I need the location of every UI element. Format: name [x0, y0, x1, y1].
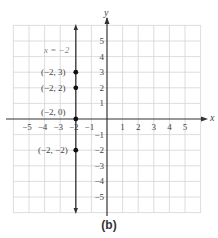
point-label-neg2-3: (−2, 3) [41, 67, 66, 77]
y-tick: −4 [94, 176, 104, 186]
x-tick: 5 [183, 122, 188, 132]
y-tick: 2 [100, 83, 105, 93]
point-neg2-0 [73, 117, 78, 122]
y-tick: 3 [100, 67, 105, 77]
line-arrow-down-icon [74, 208, 78, 214]
point-neg2-neg2 [73, 148, 78, 153]
point-label-neg2-neg2: (−2, −2) [38, 145, 68, 155]
y-tick: −2 [94, 145, 104, 155]
y-tick: −3 [94, 161, 104, 171]
coordinate-plane-figure: y x x = −2 (−2, 3) (−2, 2) (−2, 0) (−2, … [0, 0, 218, 238]
y-axis-arrow-icon [105, 17, 110, 24]
x-tick: −3 [53, 122, 63, 132]
x-tick-labels: −5 −4 −3 −2 −1 1 2 3 4 5 [22, 122, 188, 132]
y-tick: −1 [94, 130, 104, 140]
x-tick: −5 [22, 122, 32, 132]
graph-svg: y x x = −2 (−2, 3) (−2, 2) (−2, 0) (−2, … [0, 0, 218, 238]
y-axis-label: y [103, 7, 109, 18]
line-label: x = −2 [43, 45, 70, 55]
point-neg2-2 [73, 85, 78, 90]
figure-caption: (b) [0, 218, 218, 232]
point-label-neg2-2: (−2, 2) [41, 83, 66, 93]
x-tick: 2 [136, 122, 141, 132]
axes [6, 17, 208, 216]
x-axis-arrow-icon [201, 117, 208, 122]
y-tick: −5 [94, 192, 104, 202]
point-label-neg2-0: (−2, 0) [41, 107, 66, 117]
y-tick: 1 [100, 98, 105, 108]
y-tick: 4 [100, 52, 105, 62]
x-tick: −1 [85, 122, 95, 132]
line-arrow-up-icon [74, 24, 78, 30]
point-neg2-3 [73, 70, 78, 75]
x-tick: 4 [167, 122, 172, 132]
x-tick: −2 [69, 122, 79, 132]
x-tick: 3 [152, 122, 157, 132]
x-axis-label: x [209, 112, 215, 123]
x-tick: −4 [38, 122, 48, 132]
x-tick: 1 [120, 122, 125, 132]
y-tick: 5 [100, 36, 105, 46]
